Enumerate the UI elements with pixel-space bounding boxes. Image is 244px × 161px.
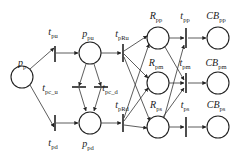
label-t-pp: tpp	[180, 10, 189, 23]
arcs	[30, 36, 206, 128]
place-r-pm	[147, 72, 169, 94]
arc	[94, 88, 101, 111]
arc	[94, 64, 101, 86]
place-r-pp	[147, 27, 169, 49]
label-t-prd: tpRd	[115, 99, 129, 112]
label-p-p: pp	[17, 57, 26, 70]
label-p-pu: ppu	[81, 28, 94, 41]
label-t-pm: tpm	[179, 57, 190, 70]
place-cb-pp	[207, 27, 229, 49]
petri-net-diagram: tputpdtpRutpRdtpptpmtpstpc_utpc_dppppupp…	[0, 0, 244, 161]
label-cb-pm: CBpm	[205, 57, 226, 70]
label-t-ps: tps	[181, 99, 190, 112]
label-t-pru: tpRu	[115, 28, 129, 41]
label-cb-ps: CBps	[207, 99, 226, 112]
arc	[124, 125, 147, 128]
label-r-ps: Rps	[149, 99, 162, 112]
place-r-ps	[147, 116, 169, 138]
label-p-pd: ppd	[81, 138, 94, 151]
place-cb-ps	[207, 116, 229, 138]
place-p-pu	[79, 42, 101, 64]
arc	[79, 88, 86, 111]
place-cb-pm	[207, 72, 229, 94]
label-t-pu: tpu	[48, 26, 58, 39]
label-t-pc-u: tpc_u	[42, 82, 58, 95]
label-t-pc-d: tpc_d	[102, 82, 118, 95]
label-t-pd: tpd	[48, 137, 58, 150]
label-r-pm: Rpm	[148, 57, 163, 70]
label-r-pp: Rpp	[149, 10, 163, 23]
arc	[30, 48, 54, 69]
labels: tputpdtpRutpRdtpptpmtpstpc_utpc_dppppupp…	[17, 10, 227, 151]
place-p-pd	[79, 112, 101, 134]
label-cb-pp: CBpp	[206, 10, 225, 23]
arc	[79, 64, 86, 86]
